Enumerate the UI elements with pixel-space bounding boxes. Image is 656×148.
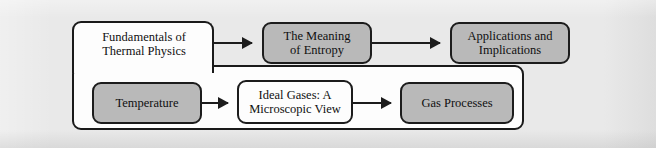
flowchart-figure: Fundamentals of Thermal Physics The Mean…	[0, 0, 656, 148]
node-entropy-line2: of Entropy	[290, 43, 344, 57]
node-fundamentals-line2: Thermal Physics	[102, 44, 186, 58]
arrow-ideal-gases-to-gas-processes	[353, 102, 391, 104]
node-gas-processes[interactable]: Gas Processes	[400, 82, 514, 124]
node-idealgases-line2: Microscopic View	[249, 102, 341, 116]
node-applications-and-implications[interactable]: Applications and Implications	[450, 22, 570, 64]
node-the-meaning-of-entropy[interactable]: The Meaning of Entropy	[262, 22, 372, 64]
node-applications-line2: Implications	[479, 43, 542, 57]
node-ideal-gases-a-microscopic-view[interactable]: Ideal Gases: A Microscopic View	[237, 80, 353, 124]
node-temperature-text: Temperature	[116, 96, 179, 110]
arrow-fundamentals-to-entropy	[214, 42, 252, 44]
node-fundamentals-of-thermal-physics[interactable]: Fundamentals of Thermal Physics	[80, 24, 208, 64]
arrow-temperature-to-ideal-gases	[202, 102, 228, 104]
node-applications-text: Applications and Implications	[467, 29, 552, 58]
enclosure-seam-patch	[76, 63, 210, 71]
node-fundamentals-text: Fundamentals of Thermal Physics	[102, 30, 186, 59]
node-entropy-line1: The Meaning	[284, 29, 351, 43]
node-applications-line1: Applications and	[467, 29, 552, 43]
node-fundamentals-line1: Fundamentals of	[102, 30, 186, 44]
node-gasprocesses-text: Gas Processes	[421, 96, 492, 110]
node-idealgases-text: Ideal Gases: A Microscopic View	[249, 88, 341, 117]
node-entropy-text: The Meaning of Entropy	[284, 29, 351, 58]
node-temperature[interactable]: Temperature	[92, 82, 202, 124]
node-idealgases-line1: Ideal Gases: A	[259, 88, 332, 102]
arrow-entropy-to-applications	[372, 42, 440, 44]
